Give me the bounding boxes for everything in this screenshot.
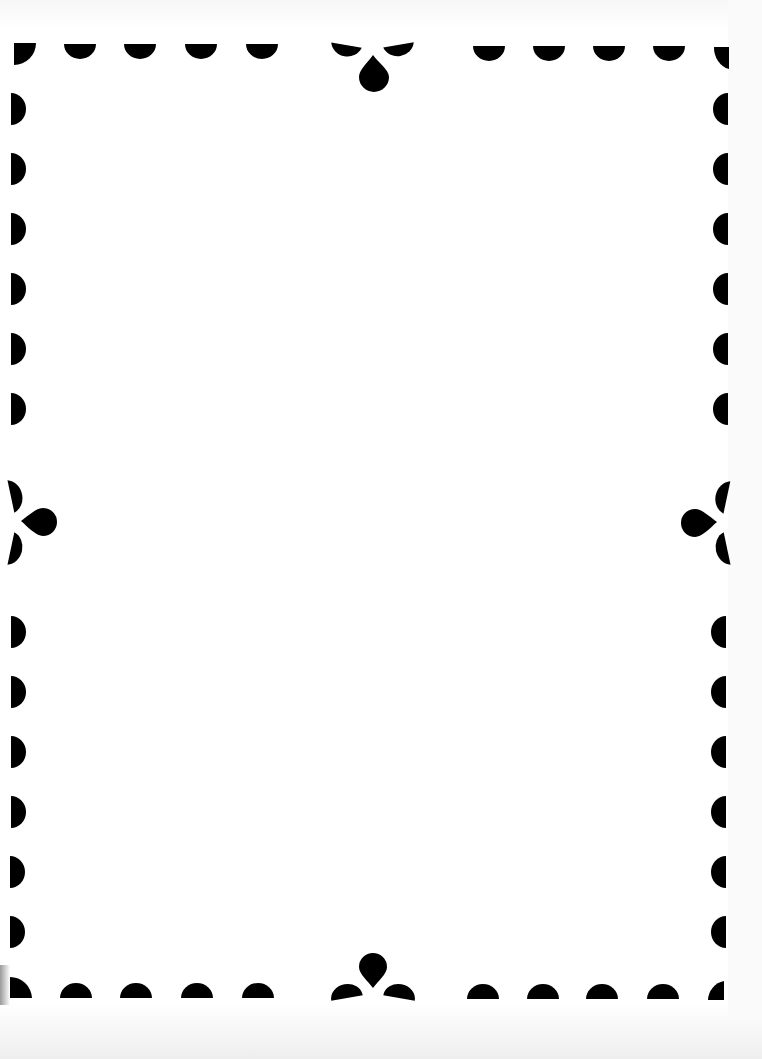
dot-icon: [11, 796, 26, 828]
page-writing-area: [60, 90, 700, 960]
dot-icon: [711, 856, 726, 888]
corner-top-right-icon: [714, 47, 729, 69]
dot-icon: [64, 44, 96, 59]
dot-icon: [713, 393, 728, 425]
dot-icon: [713, 333, 728, 365]
dot-icon: [533, 46, 565, 61]
dot-icon: [60, 983, 92, 998]
corner-top-left-icon: [14, 43, 36, 65]
dot-icon: [181, 983, 213, 998]
dot-icon: [11, 153, 26, 185]
dot-icon: [473, 46, 505, 61]
dot-icon: [711, 736, 726, 768]
dot-icon: [11, 273, 26, 305]
dot-icon: [467, 984, 499, 999]
dot-icon: [11, 213, 26, 245]
corner-bottom-right-icon: [708, 981, 724, 1000]
dot-icon: [11, 736, 26, 768]
ornament-bottom-center: [329, 953, 417, 1001]
dot-icon: [586, 984, 618, 999]
dot-icon: [242, 983, 274, 998]
teardrop-icon: [359, 55, 389, 92]
dot-icon: [711, 616, 726, 648]
dot-icon: [10, 916, 25, 948]
dot-icon: [711, 676, 726, 708]
corner-bottom-left-icon: [10, 977, 32, 998]
dot-icon: [713, 273, 728, 305]
dot-icon: [713, 93, 728, 125]
dot-icon: [11, 616, 26, 648]
dot-icon: [246, 44, 278, 59]
dot-icon: [593, 46, 625, 61]
dot-icon: [124, 44, 156, 59]
dot-icon: [11, 676, 26, 708]
dot-icon: [527, 984, 559, 999]
dot-icon: [11, 333, 26, 365]
teardrop-icon: [21, 508, 57, 536]
printable-page: [0, 0, 762, 1059]
dot-icon: [10, 856, 25, 888]
dot-icon: [120, 983, 152, 998]
dot-icon: [711, 796, 726, 828]
dot-icon: [647, 984, 679, 999]
ornament-left-middle: [7, 478, 57, 567]
dot-icon: [185, 44, 217, 59]
dot-icon: [653, 46, 685, 61]
dot-icon: [713, 153, 728, 185]
dot-icon: [11, 93, 26, 125]
dot-icon: [713, 213, 728, 245]
dot-icon: [711, 916, 726, 948]
ornament-top-center: [329, 42, 415, 92]
dot-icon: [11, 393, 26, 425]
